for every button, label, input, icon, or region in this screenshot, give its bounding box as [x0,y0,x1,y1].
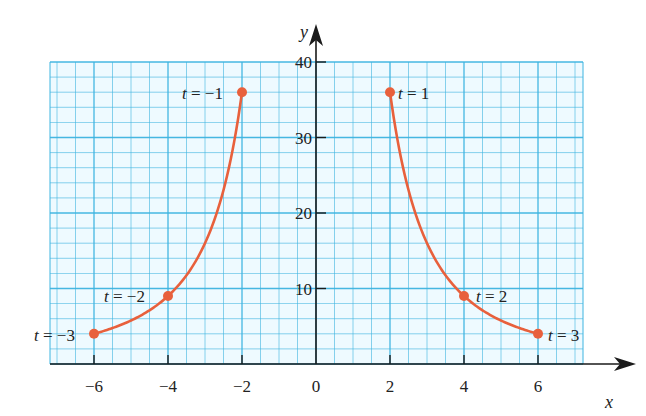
parametric-chart: −6−4−2024610203040 y x t = −3 t = −2 t =… [0,0,646,416]
x-tick-label: −6 [85,377,103,396]
point-label-t-minus-1: t = −1 [182,84,223,103]
x-tick-label: 4 [460,377,469,396]
point-label-t-minus-3: t = −3 [34,326,75,345]
y-tick-label: 40 [295,53,312,72]
data-point-marker [533,329,543,339]
point-label-t-2: t = 2 [476,287,507,306]
x-tick-label: 0 [312,377,321,396]
data-point-marker [237,87,247,97]
point-label-t-minus-2: t = −2 [104,287,145,306]
y-tick-label: 30 [295,129,312,148]
point-label-t-1: t = 1 [398,84,429,103]
y-tick-label: 10 [295,280,312,299]
y-axis-label: y [298,22,308,42]
data-point-marker [163,291,173,301]
data-point-marker [459,291,469,301]
x-axis-label: x [604,392,613,412]
data-point-marker [385,87,395,97]
x-tick-label: 2 [386,377,395,396]
y-tick-label: 20 [295,204,312,223]
x-tick-label: −2 [233,377,251,396]
x-tick-label: −4 [159,377,178,396]
x-tick-label: 6 [534,377,543,396]
point-label-t-3: t = 3 [548,326,579,345]
data-point-marker [89,329,99,339]
